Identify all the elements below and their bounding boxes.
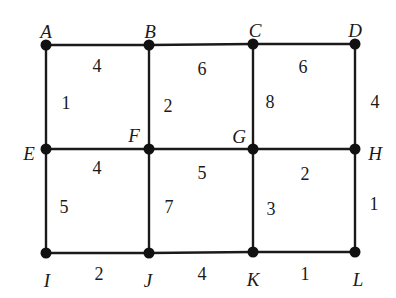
node-l [350,247,361,258]
node-label-c: C [249,20,262,41]
edge-weight-f-g: 5 [198,163,207,183]
node-label-f: F [127,125,140,146]
node-h [350,144,361,155]
node-label-l: L [352,269,364,290]
edge-weight-e-f: 4 [93,158,102,178]
node-label-e: E [22,143,35,164]
edge-weights-layer: 46612844525731241 [60,56,380,284]
edge-weight-c-g: 8 [266,92,275,112]
node-k [248,247,259,258]
edge-weight-a-e: 1 [62,93,71,113]
edge-weight-f-j: 7 [165,197,174,217]
edge-weight-b-f: 2 [164,96,173,116]
node-label-k: K [246,269,261,290]
edge-weight-e-i: 5 [60,197,69,217]
edge-weight-h-l: 1 [370,194,379,214]
node-label-j: J [144,270,154,291]
node-label-h: H [367,143,383,164]
edge-weight-c-d: 6 [299,57,308,77]
edge-j-k [149,252,253,253]
node-label-i: I [43,270,52,291]
node-g [248,144,259,155]
node-j [144,248,155,259]
edge-weight-g-k: 3 [267,199,276,219]
node-f [144,144,155,155]
node-label-a: A [38,21,52,42]
weighted-graph-diagram: 46612844525731241 ABCDEFGHIJKL [0,0,396,298]
node-label-b: B [144,21,156,42]
node-label-d: D [347,20,362,41]
node-label-g: G [232,126,246,147]
edge-weight-b-c: 6 [198,59,207,79]
edge-weight-j-k: 4 [198,264,207,284]
edge-b-c [149,44,253,45]
node-i [41,248,52,259]
edge-weight-k-l: 1 [301,264,310,284]
edge-weight-a-b: 4 [93,56,102,76]
edge-weight-i-j: 2 [95,264,104,284]
edge-weight-d-h: 4 [371,92,380,112]
edge-weight-g-h: 2 [301,164,310,184]
node-e [41,144,52,155]
